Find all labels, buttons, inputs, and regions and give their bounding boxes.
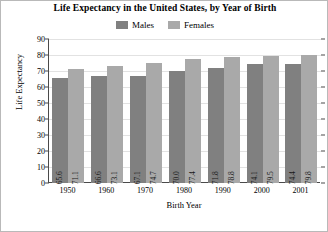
y-axis-tick-label: 10 <box>37 163 45 172</box>
bar-group: 65.671.1 <box>52 39 84 183</box>
bar-group: 74.179.5 <box>247 39 279 183</box>
legend-swatch-females <box>168 21 180 29</box>
x-axis-title: Birth Year <box>48 200 320 210</box>
y-axis-tick-mark-right <box>321 167 325 168</box>
chart-title: Life Expectancy in the United States, by… <box>1 3 328 13</box>
bar-value-label: 74.4 <box>290 171 298 184</box>
bar-value-label: 71.1 <box>73 171 81 184</box>
bar-females-2001: 79.8 <box>301 55 317 183</box>
bar-males-1980: 70.0 <box>169 71 185 183</box>
bar-value-label: 70.0 <box>173 171 181 184</box>
y-axis-tick-mark-right <box>321 151 325 152</box>
bar-males-2000: 74.1 <box>247 64 263 183</box>
bar-group: 67.174.7 <box>130 39 162 183</box>
legend-swatch-males <box>116 21 128 29</box>
y-axis-tick-mark-right <box>321 55 325 56</box>
bar-females-2000: 79.5 <box>263 56 279 183</box>
bar-value-label: 67.1 <box>134 171 142 184</box>
x-axis-tick-label: 1960 <box>90 186 122 195</box>
legend-item-males: Males <box>116 20 154 30</box>
x-axis-tick-label: 2001 <box>284 186 316 195</box>
bar-value-label: 79.8 <box>306 171 314 184</box>
legend-item-females: Females <box>168 20 214 30</box>
bar-value-label: 71.8 <box>212 171 220 184</box>
bar-females-1970: 74.7 <box>146 63 162 183</box>
y-axis-tick-mark-right <box>321 135 325 136</box>
chart-legend: Males Females <box>1 20 328 30</box>
chart-figure: Life Expectancy in the United States, by… <box>0 0 328 232</box>
y-axis-tick-label: 70 <box>37 67 45 76</box>
bar-males-1990: 71.8 <box>208 68 224 183</box>
bar-value-label: 78.8 <box>228 171 236 184</box>
y-axis-tick-mark-right <box>321 39 325 40</box>
y-axis-tick-label: 60 <box>37 83 45 92</box>
bar-value-label: 74.1 <box>251 171 259 184</box>
y-axis-tick-label: 20 <box>37 147 45 156</box>
bar-group: 70.077.4 <box>169 39 201 183</box>
bar-value-label: 79.5 <box>267 171 275 184</box>
y-axis-tick-mark-right <box>321 119 325 120</box>
bar-groups: 65.671.166.673.167.174.770.077.471.878.8… <box>49 39 321 183</box>
y-axis-tick-mark-right <box>321 103 325 104</box>
y-axis-tick-label: 30 <box>37 131 45 140</box>
y-axis-tick-mark-right <box>321 87 325 88</box>
x-axis-tick-label: 2000 <box>246 186 278 195</box>
bar-males-1950: 65.6 <box>52 78 68 183</box>
bar-value-label: 73.1 <box>112 171 120 184</box>
bar-group: 66.673.1 <box>91 39 123 183</box>
y-axis-tick-label: 50 <box>37 99 45 108</box>
legend-label-males: Males <box>132 20 154 30</box>
y-axis-tick-label: 80 <box>37 51 45 60</box>
x-axis-tick-labels: 1950196019701980199020002001 <box>48 186 320 195</box>
bar-females-1950: 71.1 <box>68 69 84 183</box>
bar-females-1960: 73.1 <box>107 66 123 183</box>
y-axis-tick-mark-right <box>321 71 325 72</box>
plot-area: 0102030405060708090 65.671.166.673.167.1… <box>48 39 320 183</box>
x-axis-tick-label: 1950 <box>51 186 83 195</box>
bar-group: 71.878.8 <box>208 39 240 183</box>
bar-females-1980: 77.4 <box>185 59 201 183</box>
y-axis-tick-mark-right <box>321 183 325 184</box>
y-axis-tick-label: 90 <box>37 35 45 44</box>
bar-group: 74.479.8 <box>285 39 317 183</box>
bar-value-label: 77.4 <box>189 171 197 184</box>
bar-males-2001: 74.4 <box>285 64 301 183</box>
x-axis-tick-label: 1980 <box>168 186 200 195</box>
bar-value-label: 65.6 <box>57 171 65 184</box>
bar-males-1960: 66.6 <box>91 76 107 183</box>
bar-males-1970: 67.1 <box>130 76 146 183</box>
bar-value-label: 66.6 <box>96 171 104 184</box>
legend-label-females: Females <box>184 20 214 30</box>
bar-females-1990: 78.8 <box>224 57 240 183</box>
x-axis-tick-label: 1990 <box>207 186 239 195</box>
x-axis-tick-label: 1970 <box>129 186 161 195</box>
bar-value-label: 74.7 <box>150 171 158 184</box>
y-axis-tick-label: 40 <box>37 115 45 124</box>
y-axis-title: Life Expectancy <box>14 22 24 142</box>
